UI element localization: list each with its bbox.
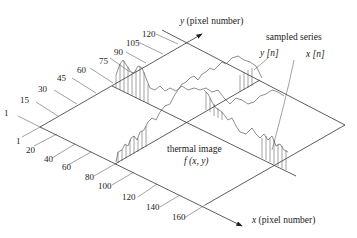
y-tick-45: 45 bbox=[57, 73, 67, 83]
x-tick-40: 40 bbox=[44, 154, 54, 164]
y-tick-75: 75 bbox=[99, 56, 109, 66]
x-ticks: 1 20 40 60 80 100 120 140 160 bbox=[16, 127, 205, 222]
x-tick-80: 80 bbox=[85, 172, 95, 182]
y-axis-label: y (pixel number) bbox=[179, 16, 243, 27]
y-tick-90: 90 bbox=[114, 47, 124, 57]
y-tick-105: 105 bbox=[126, 38, 140, 48]
y-tick-30: 30 bbox=[38, 84, 48, 94]
x-tick-100: 100 bbox=[98, 181, 112, 191]
x-series-label: x [n] bbox=[305, 49, 325, 59]
y-series-label: y [n] bbox=[259, 48, 279, 58]
x-axis-var: x bbox=[251, 215, 257, 225]
x-tick-160: 160 bbox=[172, 212, 186, 222]
thermal-image-sampling-diagram: 1 15 30 45 60 75 90 105 120 1 20 40 60 8… bbox=[0, 0, 357, 238]
x-tick-120: 120 bbox=[122, 192, 136, 202]
x-tick-60: 60 bbox=[62, 162, 72, 172]
x-axis-label: x (pixel number) bbox=[251, 215, 315, 226]
y-tick-15: 15 bbox=[20, 95, 30, 105]
annotation-leaders bbox=[254, 58, 294, 150]
sampled-series-label: sampled series bbox=[266, 32, 322, 42]
y-ticks: 1 15 30 45 60 75 90 105 120 bbox=[4, 29, 178, 127]
thermal-image-label: thermal image bbox=[167, 144, 222, 154]
x-axis bbox=[40, 127, 242, 226]
x-tick-1: 1 bbox=[16, 136, 21, 146]
y-tick-1: 1 bbox=[4, 108, 9, 118]
y-axis-unit: (pixel number) bbox=[187, 16, 244, 27]
x-tick-20: 20 bbox=[26, 145, 36, 155]
x-tick-140: 140 bbox=[146, 202, 160, 212]
y-tick-120: 120 bbox=[142, 29, 156, 39]
y-series-curve bbox=[116, 60, 284, 104]
y-tick-60: 60 bbox=[77, 65, 87, 75]
x-axis-unit: (pixel number) bbox=[259, 215, 316, 226]
thermal-image-function: f (x, y) bbox=[184, 156, 209, 167]
y-axis-var: y bbox=[179, 16, 185, 26]
